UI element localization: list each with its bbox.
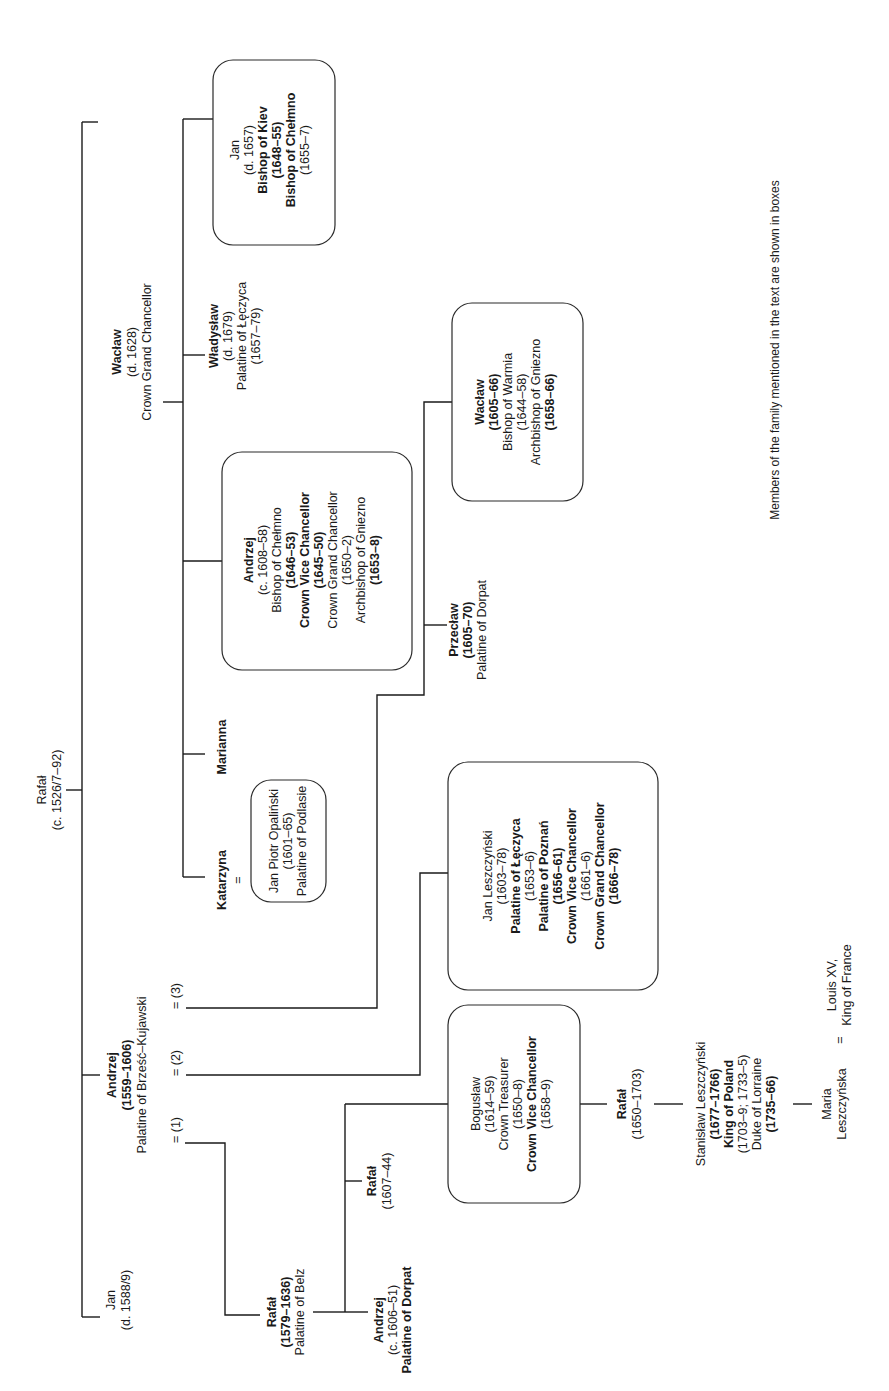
svg-text:(d. 1679): (d. 1679)	[221, 311, 235, 361]
svg-text:(d. 1628): (d. 1628)	[125, 327, 139, 377]
svg-text:(1559–1606): (1559–1606)	[120, 1040, 134, 1111]
svg-text:Wacław: Wacław	[110, 329, 124, 375]
svg-text:Władysław: Władysław	[207, 304, 221, 368]
svg-text:=: =	[231, 876, 245, 883]
svg-text:Archbishop of Gniezno: Archbishop of Gniezno	[354, 497, 368, 624]
svg-text:Rafał: Rafał	[265, 1296, 279, 1327]
svg-text:(1614–59): (1614–59)	[483, 1076, 497, 1133]
svg-text:Jan Leszczyński: Jan Leszczyński	[481, 830, 495, 921]
marriage-label-katarzyna: =	[231, 876, 245, 883]
marriage-label-maria: =	[833, 1036, 847, 1043]
svg-text:(1646–53): (1646–53)	[284, 532, 298, 589]
svg-text:Rafał: Rafał	[365, 1165, 379, 1196]
svg-text:Palatine of Belz: Palatine of Belz	[293, 1269, 307, 1356]
caption: Members of the family mentioned in the t…	[768, 180, 782, 520]
svg-text:(1603–78): (1603–78)	[495, 848, 509, 905]
svg-text:Palatine of Dorpat: Palatine of Dorpat	[475, 579, 489, 680]
person-rafal-1607: Rafał (1607–44)	[365, 1153, 394, 1210]
svg-text:(1579–1636): (1579–1636)	[279, 1277, 293, 1348]
svg-text:Crown Grand Chancellor: Crown Grand Chancellor	[140, 283, 154, 421]
marriage-label-3: = (3)	[169, 983, 183, 1009]
svg-text:(1735–66): (1735–66)	[764, 1076, 778, 1133]
svg-text:Bishop of Chełmno: Bishop of Chełmno	[270, 507, 284, 613]
svg-text:(c. 1606–51): (c. 1606–51)	[386, 1285, 400, 1355]
svg-text:King of France: King of France	[840, 944, 854, 1025]
person-louis: Louis XV, King of France	[825, 944, 854, 1025]
svg-text:= (1): = (1)	[169, 1117, 183, 1143]
svg-text:Andrzej: Andrzej	[242, 537, 256, 583]
svg-text:Members of the family mentione: Members of the family mentioned in the t…	[768, 180, 782, 520]
marriage-label-2: = (2)	[169, 1050, 183, 1076]
person-rafal-1579: Rafał (1579–1636) Palatine of Belz	[265, 1269, 307, 1356]
person-andrzej-1559: Andrzej (1559–1606) Palatine of Brześć–K…	[105, 996, 149, 1153]
svg-text:(1601–65): (1601–65)	[281, 813, 295, 870]
svg-text:(1656–61): (1656–61)	[551, 848, 565, 905]
svg-text:Archbishop of Gniezno: Archbishop of Gniezno	[529, 339, 543, 466]
svg-text:Andrzej: Andrzej	[372, 1297, 386, 1343]
svg-text:(1644–58): (1644–58)	[515, 374, 529, 431]
svg-text:(1650–2): (1650–2)	[340, 535, 354, 585]
svg-text:Jan: Jan	[228, 140, 242, 160]
svg-text:(c. 1526/7–92): (c. 1526/7–92)	[50, 750, 64, 831]
svg-text:=: =	[833, 1036, 847, 1043]
person-marianna: Marianna	[215, 719, 229, 775]
person-andrzej-1606: Andrzej (c. 1606–51) Palatine of Dorpat	[372, 1266, 414, 1374]
svg-text:Katarzyna: Katarzyna	[215, 849, 229, 910]
boxes	[213, 60, 658, 1203]
svg-text:(c. 1608–58): (c. 1608–58)	[256, 525, 270, 595]
svg-text:(1607–44): (1607–44)	[380, 1153, 394, 1210]
person-rafal-1650: Rafał (1650–1703)	[615, 1069, 644, 1140]
svg-text:Palatine of Brześć–Kujawski: Palatine of Brześć–Kujawski	[135, 996, 149, 1153]
svg-text:Crown Vice Chancellor: Crown Vice Chancellor	[525, 1036, 539, 1172]
svg-text:(1605–66): (1605–66)	[487, 374, 501, 431]
person-katarzyna: Katarzyna	[215, 849, 229, 910]
svg-text:(1653–6): (1653–6)	[523, 851, 537, 901]
person-rafal-root: Rafał (c. 1526/7–92)	[35, 750, 64, 831]
line-marriage-1	[185, 1143, 260, 1315]
svg-text:(1661–6): (1661–6)	[579, 851, 593, 901]
svg-text:Palatine of Łęczyca: Palatine of Łęczyca	[235, 282, 249, 390]
svg-text:Crown Grand Chancellor: Crown Grand Chancellor	[326, 491, 340, 629]
family-tree-diagram: Rafał (c. 1526/7–92) Jan (d. 1588/9) And…	[0, 0, 889, 1391]
svg-text:Rafał: Rafał	[35, 775, 49, 804]
svg-text:(1657–79): (1657–79)	[249, 308, 263, 365]
svg-text:Palatine of Dorpat: Palatine of Dorpat	[400, 1266, 414, 1374]
svg-text:Bishop of Kiev: Bishop of Kiev	[256, 106, 270, 194]
svg-text:Louis XV,: Louis XV,	[825, 959, 839, 1011]
svg-text:Crown Vice Chancellor: Crown Vice Chancellor	[565, 808, 579, 944]
svg-text:(1645–50): (1645–50)	[312, 532, 326, 589]
marriage-label-1: = (1)	[169, 1117, 183, 1143]
svg-text:= (2): = (2)	[169, 1050, 183, 1076]
svg-text:(d. 1657): (d. 1657)	[242, 125, 256, 175]
svg-text:(1648–55): (1648–55)	[270, 122, 284, 179]
svg-text:Crown Grand Chancellor: Crown Grand Chancellor	[593, 802, 607, 949]
svg-text:Andrzej: Andrzej	[105, 1052, 119, 1098]
svg-text:Leszczyńska: Leszczyńska	[835, 1068, 849, 1140]
svg-text:(1658–66): (1658–66)	[543, 374, 557, 431]
svg-text:Jan: Jan	[104, 1290, 118, 1310]
svg-text:Stanisław Leszczyński: Stanisław Leszczyński	[694, 1042, 708, 1166]
person-waclaw-1628: Wacław (d. 1628) Crown Grand Chancellor	[110, 283, 154, 421]
svg-text:(1666–78): (1666–78)	[607, 848, 621, 905]
svg-text:Duke of Lorraine: Duke of Lorraine	[750, 1058, 764, 1150]
svg-text:(1658–9): (1658–9)	[539, 1079, 553, 1129]
svg-text:(1650–8): (1650–8)	[511, 1079, 525, 1129]
svg-text:Bishop of Warmia: Bishop of Warmia	[501, 353, 515, 451]
svg-text:Marianna: Marianna	[215, 719, 229, 775]
person-wladyslaw: Władysław (d. 1679) Palatine of Łęczyca …	[207, 282, 263, 390]
svg-text:(1650–1703): (1650–1703)	[630, 1069, 644, 1140]
svg-text:Wacław: Wacław	[473, 379, 487, 425]
svg-text:Jan Piotr Opaliński: Jan Piotr Opaliński	[267, 789, 281, 893]
svg-text:Palatine of Łęczyca: Palatine of Łęczyca	[509, 817, 523, 933]
svg-text:= (3): = (3)	[169, 983, 183, 1009]
svg-text:Przecław: Przecław	[447, 603, 461, 657]
svg-text:(1655–7): (1655–7)	[298, 125, 312, 175]
person-stanislaw: Stanisław Leszczyński (1677–1766) King o…	[694, 1042, 778, 1166]
person-przeclaw: Przecław (1605–70) Palatine of Dorpat	[447, 579, 489, 680]
person-jan-1588: Jan (d. 1588/9)	[104, 1270, 133, 1330]
svg-text:Rafał: Rafał	[615, 1088, 629, 1119]
svg-text:Crown Vice Chancellor: Crown Vice Chancellor	[298, 492, 312, 628]
svg-text:(1703–9; 1733–5): (1703–9; 1733–5)	[736, 1055, 750, 1154]
svg-text:Bishop of Chełmno: Bishop of Chełmno	[284, 92, 298, 207]
svg-text:Maria: Maria	[820, 1088, 834, 1119]
